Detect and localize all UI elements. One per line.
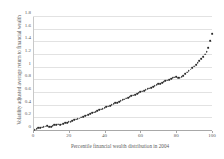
x-tick-mark: [33, 131, 34, 133]
y-axis-line: [33, 17, 34, 131]
y-tick-label: 0.8: [25, 73, 31, 78]
data-point: [202, 56, 204, 58]
x-tick-label: 60: [138, 133, 143, 138]
x-tick-mark: [176, 131, 177, 133]
x-tick-mark: [69, 131, 70, 133]
x-tick-label: 100: [208, 133, 216, 138]
y-tick-label: 0.6: [25, 86, 31, 91]
data-point: [188, 70, 190, 72]
y-tick-label: 1.8: [25, 10, 31, 15]
y-tick-label: 1: [29, 60, 32, 65]
gridline: [33, 67, 212, 68]
data-point: [195, 64, 197, 66]
y-tick-label: 1.4: [25, 35, 31, 40]
y-tick-label: 0.2: [25, 111, 31, 116]
x-tick-mark: [212, 131, 213, 133]
y-tick-label: 1.2: [25, 48, 31, 53]
x-tick-mark: [140, 131, 141, 133]
data-point: [211, 33, 213, 35]
data-point: [183, 75, 185, 77]
y-tick-label: 0.4: [25, 98, 31, 103]
x-axis-title: Percentile financial wealth distribution…: [28, 143, 212, 149]
data-point: [197, 62, 199, 64]
data-point: [208, 47, 210, 49]
gridline: [33, 54, 212, 55]
gridline: [33, 29, 212, 30]
gridline: [33, 105, 212, 106]
x-tick-mark: [105, 131, 106, 133]
data-point: [186, 72, 188, 74]
gridline: [33, 79, 212, 80]
y-tick-label: 0: [29, 124, 32, 129]
data-point: [184, 73, 186, 75]
x-tick-label: 20: [66, 133, 71, 138]
y-axis-title: Volatility adjusted average return to fi…: [16, 4, 22, 136]
gridline: [33, 16, 212, 17]
data-point: [206, 51, 208, 53]
x-tick-label: 40: [102, 133, 107, 138]
data-point: [204, 54, 206, 56]
data-point: [190, 68, 192, 70]
gridline: [33, 92, 212, 93]
plot-area: 00.20.40.60.811.21.41.61.8 020406080100: [33, 17, 212, 131]
data-point: [199, 60, 201, 62]
x-axis-line: [33, 130, 212, 131]
gridline: [33, 117, 212, 118]
data-point: [181, 76, 183, 78]
data-point: [200, 58, 202, 60]
data-point: [209, 40, 211, 42]
data-point: [193, 66, 195, 68]
x-tick-label: 0: [32, 133, 35, 138]
y-tick-label: 1.6: [25, 22, 31, 27]
chart-figure: Volatility adjusted average return to fi…: [0, 0, 224, 159]
x-tick-label: 80: [174, 133, 179, 138]
gridline: [33, 41, 212, 42]
